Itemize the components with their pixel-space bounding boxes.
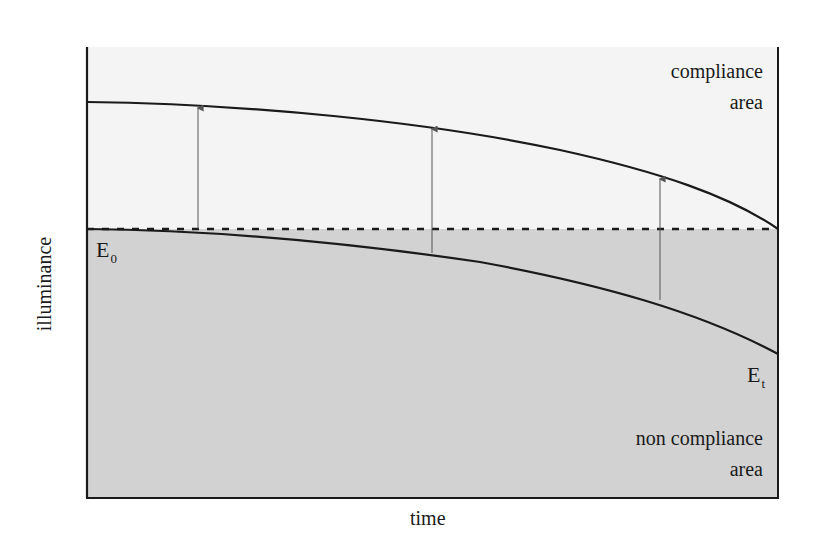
e0-symbol-base: E <box>96 237 109 262</box>
compliance-area-label-line2: area <box>671 87 763 118</box>
non-compliance-area-label-line2: area <box>636 454 763 485</box>
non-compliance-area-label-line1: non compliance <box>636 423 763 454</box>
non-compliance-area-label: non compliance area <box>636 423 763 485</box>
e0-symbol-subscript: 0 <box>110 251 117 266</box>
et-symbol-base: E <box>747 362 760 387</box>
e0-symbol-label: E0 <box>96 239 117 265</box>
y-axis-label: illuminance <box>34 237 54 331</box>
et-symbol-subscript: t <box>761 376 765 391</box>
et-symbol-label: Et <box>747 364 765 390</box>
compliance-area-label: compliance area <box>671 56 763 118</box>
x-axis-label: time <box>410 508 446 528</box>
compliance-area-label-line1: compliance <box>671 56 763 87</box>
